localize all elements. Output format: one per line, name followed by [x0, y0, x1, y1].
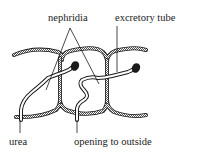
- label-excretory-tube: excretory tube: [115, 13, 175, 24]
- nephridium-right: [77, 62, 142, 120]
- label-nephridia: nephridia: [48, 13, 88, 24]
- label-opening-to-outside: opening to outside: [74, 137, 152, 148]
- label-urea: urea: [9, 137, 27, 148]
